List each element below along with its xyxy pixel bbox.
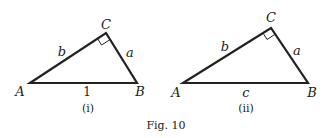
- figure-10: C A B b a 1 (i) C A B b a c (ii) Fig. 10: [0, 0, 332, 138]
- sublabel-i: (i): [82, 102, 94, 115]
- vertex-c-label: C: [266, 10, 276, 25]
- figure-caption: Fig. 10: [146, 119, 185, 132]
- vertex-a-label: A: [170, 85, 180, 100]
- triangle-ii: C A B b a c (ii): [170, 10, 316, 115]
- triangle-i: C A B b a 1 (i): [14, 17, 144, 115]
- right-angle-mark-i: [98, 39, 110, 46]
- side-a-label: a: [293, 43, 301, 58]
- sublabel-ii: (ii): [238, 102, 254, 115]
- side-c-label: c: [242, 85, 250, 100]
- right-angle-mark-ii: [263, 33, 276, 40]
- triangle-ii-shape: [183, 28, 308, 83]
- side-ab-label: 1: [83, 85, 91, 99]
- vertex-b-label: B: [134, 84, 145, 99]
- triangle-i-shape: [30, 33, 137, 83]
- vertex-b-label: B: [306, 85, 317, 100]
- side-a-label: a: [126, 45, 134, 60]
- side-b-label: b: [58, 44, 66, 59]
- vertex-a-label: A: [14, 84, 24, 99]
- side-b-label: b: [221, 39, 229, 54]
- vertex-c-label: C: [101, 17, 111, 32]
